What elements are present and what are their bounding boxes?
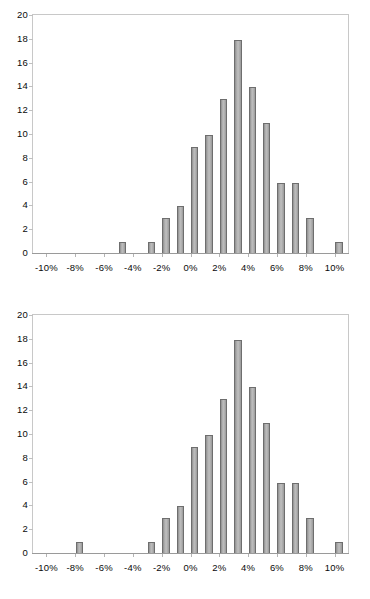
y-tick-mark — [29, 339, 33, 340]
y-tick-mark — [29, 110, 33, 111]
bar — [306, 218, 313, 254]
y-tick-label: 4 — [0, 200, 28, 210]
x-tick-mark — [191, 554, 192, 557]
x-tick-mark — [219, 554, 220, 557]
y-tick-label: 0 — [0, 548, 28, 558]
x-tick-label: 8% — [299, 563, 313, 573]
y-tick-label: 12 — [0, 105, 28, 115]
bar — [306, 518, 313, 554]
x-tick-label: -10% — [35, 263, 58, 273]
y-tick-mark — [29, 15, 33, 16]
y-tick-label: 6 — [0, 177, 28, 187]
y-tick-mark — [29, 482, 33, 483]
y-tick-mark — [29, 229, 33, 230]
y-tick-label: 16 — [0, 58, 28, 68]
y-tick-label: 18 — [0, 34, 28, 44]
bar — [177, 506, 184, 554]
bar — [205, 435, 212, 554]
plot-wrapper-bottom: 02468101214161820 -10%-8%-6%-4%-2%0%2%4%… — [0, 314, 370, 562]
plot-wrapper-top: 02468101214161820 -10%-8%-6%-4%-2%0%2%4%… — [0, 14, 370, 262]
x-tick-mark — [162, 254, 163, 257]
x-tick-label: -8% — [66, 263, 84, 273]
y-tick-mark — [29, 363, 33, 364]
x-tick-mark — [248, 254, 249, 257]
bar — [277, 483, 284, 554]
x-tick-mark — [46, 254, 47, 257]
x-tick-label: 6% — [270, 263, 284, 273]
bar — [234, 340, 241, 554]
x-tick-mark — [248, 554, 249, 557]
y-tick-label: 14 — [0, 381, 28, 391]
x-tick-mark — [162, 554, 163, 557]
x-axis-labels-top: -10%-8%-6%-4%-2%0%2%4%6%8%10% — [32, 263, 349, 279]
x-tick-mark — [335, 254, 336, 257]
bar-series-bottom — [65, 315, 370, 555]
y-tick-label: 16 — [0, 358, 28, 368]
y-tick-label: 6 — [0, 477, 28, 487]
plot-area-top — [32, 14, 349, 254]
x-tick-label: 2% — [212, 263, 226, 273]
x-tick-label: -6% — [95, 263, 113, 273]
x-axis-labels-bottom: -10%-8%-6%-4%-2%0%2%4%6%8%10% — [32, 563, 349, 579]
bar — [292, 483, 299, 554]
x-tick-mark — [306, 254, 307, 257]
y-tick-mark — [29, 505, 33, 506]
bar — [263, 123, 270, 254]
figure-page: 02468101214161820 -10%-8%-6%-4%-2%0%2%4%… — [0, 0, 370, 599]
x-tick-label: 10% — [325, 263, 345, 273]
y-tick-mark — [29, 458, 33, 459]
x-tick-label: -2% — [153, 263, 171, 273]
y-tick-mark — [29, 182, 33, 183]
y-tick-mark — [29, 410, 33, 411]
x-tick-label: -4% — [124, 563, 142, 573]
bar — [220, 399, 227, 554]
y-tick-label: 10 — [0, 429, 28, 439]
x-tick-mark — [191, 254, 192, 257]
bar — [263, 423, 270, 554]
x-tick-label: 4% — [241, 563, 255, 573]
bar — [292, 183, 299, 254]
y-tick-mark — [29, 134, 33, 135]
x-tick-label: 6% — [270, 563, 284, 573]
x-tick-mark — [133, 554, 134, 557]
y-tick-label: 4 — [0, 500, 28, 510]
bar-series-top — [65, 15, 370, 255]
x-tick-label: 8% — [299, 263, 313, 273]
y-tick-mark — [29, 63, 33, 64]
x-tick-mark — [133, 254, 134, 257]
y-axis-labels-top: 02468101214161820 — [0, 14, 28, 262]
bar — [277, 183, 284, 254]
x-tick-mark — [335, 554, 336, 557]
x-tick-label: -4% — [124, 263, 142, 273]
y-tick-label: 2 — [0, 524, 28, 534]
bar — [162, 218, 169, 254]
x-tick-label: 10% — [325, 563, 345, 573]
x-tick-mark — [104, 554, 105, 557]
y-tick-label: 2 — [0, 224, 28, 234]
y-tick-label: 20 — [0, 310, 28, 320]
x-tick-label: -6% — [95, 563, 113, 573]
bar — [234, 40, 241, 254]
x-tick-mark — [277, 554, 278, 557]
y-tick-label: 18 — [0, 334, 28, 344]
bar — [205, 135, 212, 254]
plot-area-bottom — [32, 314, 349, 554]
x-tick-label: 4% — [241, 263, 255, 273]
chart-histogram-bottom: 02468101214161820 -10%-8%-6%-4%-2%0%2%4%… — [0, 300, 370, 592]
y-tick-label: 8 — [0, 453, 28, 463]
y-tick-mark — [29, 386, 33, 387]
y-tick-label: 0 — [0, 248, 28, 258]
x-tick-label: -2% — [153, 563, 171, 573]
x-tick-mark — [46, 554, 47, 557]
y-tick-mark — [29, 205, 33, 206]
y-tick-mark — [29, 529, 33, 530]
x-tick-mark — [219, 254, 220, 257]
bar — [191, 447, 198, 554]
bar — [220, 99, 227, 254]
x-tick-mark — [75, 554, 76, 557]
chart-histogram-top: 02468101214161820 -10%-8%-6%-4%-2%0%2%4%… — [0, 0, 370, 292]
y-tick-label: 12 — [0, 405, 28, 415]
bar — [162, 518, 169, 554]
x-tick-mark — [277, 254, 278, 257]
y-tick-label: 8 — [0, 153, 28, 163]
